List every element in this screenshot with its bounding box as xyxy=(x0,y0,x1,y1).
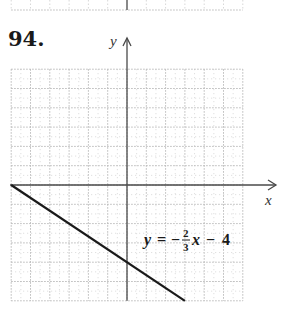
equation-label: y = − 2 3 x − 4 xyxy=(142,227,230,253)
figure: 94. y x y = − 2 3 x − 4 xyxy=(0,0,281,318)
fraction-denominator: 3 xyxy=(183,241,189,253)
axis-labels: y x xyxy=(108,33,272,208)
fraction-numerator: 2 xyxy=(183,227,189,239)
y-axis-label: y xyxy=(108,33,117,49)
previous-figure-grid xyxy=(11,0,243,10)
equation-constant: 4 xyxy=(222,231,230,248)
problem-number: 94. xyxy=(8,26,45,51)
equation-var: x xyxy=(191,231,200,248)
equation-equals: = xyxy=(157,231,166,248)
equation-lhs: y xyxy=(142,231,152,249)
equation-minus: − xyxy=(206,231,215,248)
x-axis-label: x xyxy=(264,192,272,208)
equation-sign: − xyxy=(171,231,180,248)
